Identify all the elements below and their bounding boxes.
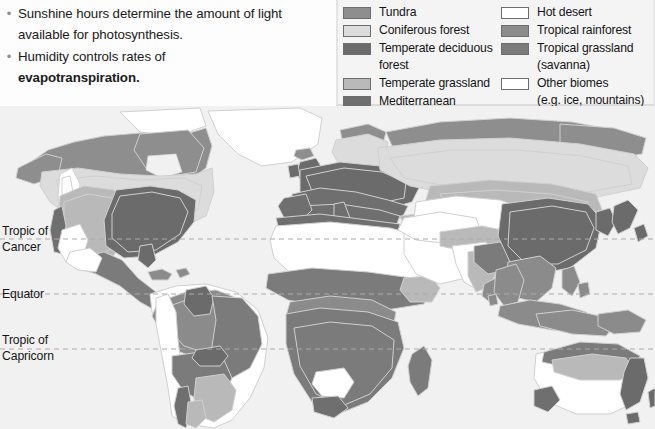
legend-item-tropical-grassland: Tropical grassland (savanna) <box>501 40 653 74</box>
legend-label-temperate-deciduous-forest: Temperate deciduous forest <box>379 40 493 74</box>
legend-item-temperate-deciduous-forest: Temperate deciduous forest <box>343 40 498 74</box>
bullet-1-line-1: Sunshine hours determine the amount of l… <box>18 6 282 21</box>
legend-swatch-tropical-grassland <box>501 43 529 55</box>
bullet-2-line-1: Humidity controls rates of <box>18 49 165 64</box>
legend-swatch-hot-desert <box>501 7 529 19</box>
legend-swatch-tropical-rainforest <box>501 25 529 37</box>
legend-column-left: Tundra Coniferous forest Temperate decid… <box>338 0 498 104</box>
legend-item-hot-desert: Hot desert <box>501 4 653 21</box>
legend-swatch-coniferous-forest <box>343 25 371 37</box>
label-tropic-of-capricorn: Tropic of Capricorn <box>2 332 54 364</box>
legend-swatch-temperate-grassland <box>343 78 371 90</box>
map-svg: .o{stroke:#d0d0d0;stroke-width:1;} .tun{… <box>0 106 655 429</box>
legend-column-right: Hot desert Tropical rainforest Tropical … <box>498 0 653 104</box>
legend-item-tundra: Tundra <box>343 4 498 21</box>
legend-label-tropical-rainforest: Tropical rainforest <box>537 22 631 39</box>
legend-item-coniferous-forest: Coniferous forest <box>343 22 498 39</box>
bullet-text-2: Humidity controls rates of evapotranspir… <box>18 46 336 88</box>
legend-label-hot-desert: Hot desert <box>537 4 592 21</box>
legend-label-tundra: Tundra <box>379 4 416 21</box>
bullet-list: • Sunshine hours determine the amount of… <box>0 0 336 106</box>
bullet-2-line-2-bold: evapotranspiration. <box>18 70 140 85</box>
list-item: • Humidity controls rates of evapotransp… <box>0 46 336 88</box>
label-tropic-of-cancer: Tropic of Cancer <box>2 223 48 255</box>
slide-root: • Sunshine hours determine the amount of… <box>0 0 655 429</box>
map-legend: Tundra Coniferous forest Temperate decid… <box>336 0 655 106</box>
legend-label-other-biomes: Other biomes (e.g. ice, mountains) <box>537 75 644 109</box>
world-biome-map: .o{stroke:#d0d0d0;stroke-width:1;} .tun{… <box>0 106 655 429</box>
bullet-dot-icon: • <box>0 46 18 67</box>
bullet-1-line-2: available for photosynthesis. <box>18 27 183 42</box>
list-item: • Sunshine hours determine the amount of… <box>0 3 336 45</box>
legend-item-temperate-grassland: Temperate grassland <box>343 75 498 92</box>
legend-swatch-tundra <box>343 7 371 19</box>
legend-swatch-other-biomes <box>501 78 529 90</box>
legend-label-temperate-grassland: Temperate grassland <box>379 75 490 92</box>
legend-label-tropical-grassland: Tropical grassland (savanna) <box>537 40 633 74</box>
legend-swatch-temperate-deciduous-forest <box>343 43 371 55</box>
legend-label-coniferous-forest: Coniferous forest <box>379 22 469 39</box>
legend-item-tropical-rainforest: Tropical rainforest <box>501 22 653 39</box>
label-equator: Equator <box>2 286 44 302</box>
bullet-dot-icon: • <box>0 3 18 24</box>
legend-item-other-biomes: Other biomes (e.g. ice, mountains) <box>501 75 653 109</box>
bullet-text-1: Sunshine hours determine the amount of l… <box>18 3 336 45</box>
